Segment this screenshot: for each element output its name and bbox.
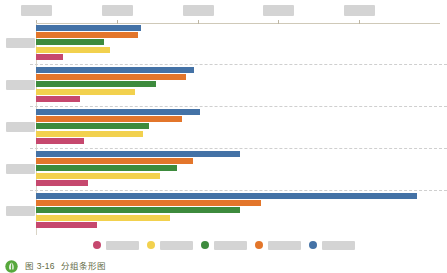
bar-group: ███	[0, 193, 447, 229]
legend-item[interactable]: ████	[93, 241, 139, 250]
category-label: ███	[6, 206, 35, 216]
legend-color-dot	[309, 241, 317, 249]
bar	[36, 32, 138, 38]
bar	[36, 123, 149, 129]
bar	[36, 138, 84, 144]
bar	[36, 222, 97, 228]
bar-group-bars	[36, 25, 447, 61]
bar-group-bars	[36, 193, 447, 229]
legend-item[interactable]: ████	[309, 241, 355, 250]
bar	[36, 173, 160, 179]
leaf-circle-icon	[5, 259, 18, 272]
bar	[36, 207, 240, 213]
legend-label: ████	[268, 241, 301, 250]
legend-color-dot	[255, 241, 263, 249]
category-label: ███	[6, 80, 35, 90]
bar	[36, 151, 240, 157]
legend-label: ████	[214, 241, 247, 250]
figure-container: ████████████████████ ███████████████ ███…	[0, 0, 447, 273]
bar	[36, 200, 261, 206]
group-divider	[30, 64, 447, 65]
bar	[36, 116, 182, 122]
bar	[36, 131, 143, 137]
bar	[36, 54, 63, 60]
group-divider	[30, 106, 447, 107]
category-label: ███	[6, 122, 35, 132]
bar	[36, 67, 194, 73]
legend-item[interactable]: ████	[201, 241, 247, 250]
x-axis-tick-label: ████	[183, 5, 214, 16]
bar-group-bars	[36, 151, 447, 187]
group-divider	[30, 148, 447, 149]
x-axis-tick-label: ████	[21, 5, 52, 16]
bar	[36, 81, 156, 87]
legend-label: ████	[322, 241, 355, 250]
bar	[36, 96, 80, 102]
legend-color-dot	[93, 241, 101, 249]
bar	[36, 215, 170, 221]
bar-group: ███	[0, 151, 447, 187]
legend-color-dot	[147, 241, 155, 249]
bar-group: ███	[0, 109, 447, 145]
bar	[36, 165, 177, 171]
x-axis-tick-labels: ████████████████████	[0, 0, 447, 20]
bar	[36, 74, 186, 80]
bar	[36, 158, 193, 164]
bar-group: ███	[0, 25, 447, 61]
category-label: ███	[6, 164, 35, 174]
bar	[36, 39, 104, 45]
bar	[36, 109, 200, 115]
legend-item[interactable]: ████	[147, 241, 193, 250]
x-axis-tick-label: ████	[263, 5, 294, 16]
caption-text: 图 3-16分组条形图	[25, 259, 107, 271]
legend-color-dot	[201, 241, 209, 249]
x-axis-tick-label: ████	[102, 5, 133, 16]
bar	[36, 25, 141, 31]
plot-area: ███████████████	[0, 23, 447, 235]
bar	[36, 89, 135, 95]
caption-figure-title: 分组条形图	[61, 261, 107, 271]
group-divider	[30, 190, 447, 191]
bar-group: ███	[0, 67, 447, 103]
bar-group-bars	[36, 109, 447, 145]
legend-label: ████	[106, 241, 139, 250]
caption-figure-number: 图 3-16	[25, 261, 55, 271]
bar	[36, 180, 88, 186]
legend-item[interactable]: ████	[255, 241, 301, 250]
category-label: ███	[6, 38, 35, 48]
bar	[36, 193, 417, 199]
figure-caption: 图 3-16分组条形图	[5, 258, 107, 272]
legend-label: ████	[160, 241, 193, 250]
bar-group-bars	[36, 67, 447, 103]
x-axis-tick-label: ████	[344, 5, 375, 16]
bar	[36, 47, 110, 53]
chart-legend: ████████████████████	[0, 238, 447, 252]
